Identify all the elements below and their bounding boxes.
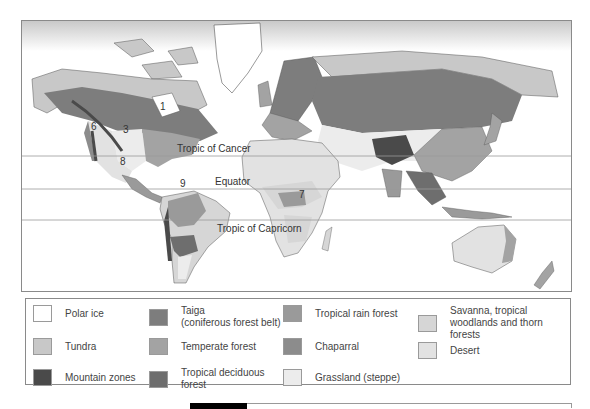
legend-item-tropical-deciduous-forest: Tropical deciduous forest xyxy=(149,367,265,391)
caption-bar-black-block xyxy=(190,403,247,409)
legend-item-desert: Desert xyxy=(418,342,479,359)
swatch-temperate-forest xyxy=(149,338,168,355)
region-number: 7 xyxy=(299,189,305,200)
legend-item-tropical-rain-forest: Tropical rain forest xyxy=(283,305,397,322)
caption-bar xyxy=(190,403,572,408)
map-legend: Polar ice Tundra Mountain zones Taiga (c… xyxy=(25,298,571,385)
legend-item-chaparral: Chaparral xyxy=(283,338,359,355)
swatch-desert xyxy=(418,342,437,359)
tropic-of-cancer-label: Tropic of Cancer xyxy=(177,143,251,154)
region-number: 1 xyxy=(160,101,166,112)
greenland xyxy=(214,23,262,93)
swatch-tundra xyxy=(33,338,52,355)
swatch-mountain-zones xyxy=(33,369,52,386)
region-number: 6 xyxy=(91,121,97,132)
legend-item-polar-ice: Polar ice xyxy=(33,305,104,322)
swatch-grassland xyxy=(283,369,302,386)
world-map-graphic xyxy=(22,21,572,292)
swatch-taiga xyxy=(149,309,168,326)
legend-item-temperate-forest: Temperate forest xyxy=(149,338,256,355)
swatch-tropical-rain-forest xyxy=(283,305,302,322)
region-number: 9 xyxy=(180,178,186,189)
biome-world-map: Tropic of Cancer Equator Tropic of Capri… xyxy=(21,20,572,292)
region-number: 8 xyxy=(120,156,126,167)
equator-label: Equator xyxy=(215,176,250,187)
legend-item-taiga: Taiga (coniferous forest belt) xyxy=(149,305,281,329)
region-number: 3 xyxy=(123,124,129,135)
swatch-polar-ice xyxy=(33,305,52,322)
legend-item-savanna: Savanna, tropical woodlands and thorn fo… xyxy=(418,305,570,341)
swatch-savanna xyxy=(418,315,437,332)
polar-ice-band xyxy=(22,21,572,51)
tropic-of-capricorn-label: Tropic of Capricorn xyxy=(217,223,302,234)
legend-item-mountain-zones: Mountain zones xyxy=(33,369,136,386)
legend-item-grassland: Grassland (steppe) xyxy=(283,369,400,386)
legend-item-tundra: Tundra xyxy=(33,338,96,355)
swatch-tropical-deciduous-forest xyxy=(149,371,168,388)
swatch-chaparral xyxy=(283,338,302,355)
